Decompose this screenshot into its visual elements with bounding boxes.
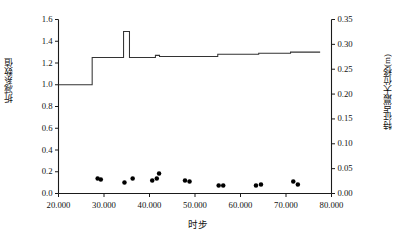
y-axis-left-tick-label: 1.2 <box>42 58 53 68</box>
x-axis-tick-label: 70.000 <box>262 200 310 210</box>
scatter-point <box>221 183 226 188</box>
x-axis-tick-label: 20.000 <box>35 200 83 210</box>
y-axis-right-tick-label: 0.00 <box>338 188 353 198</box>
scatter-point <box>99 177 104 182</box>
scatter-point <box>296 182 301 187</box>
scatter-point <box>150 178 155 183</box>
y-axis-right-tick-label: 0.10 <box>338 138 353 148</box>
scatter-point <box>254 183 259 188</box>
scatter-series <box>59 0 320 188</box>
y-axis-left-tick-label: 0.6 <box>42 123 53 133</box>
y-axis-left-tick-label: 0.0 <box>42 188 53 198</box>
y-axis-right-tick-label: 0.25 <box>338 64 353 74</box>
scatter-point <box>157 171 162 176</box>
x-axis-tick-label: 30.000 <box>80 200 128 210</box>
y-axis-right-tick-label: 0.35 <box>338 14 353 24</box>
y-axis-left-tick-label: 0.2 <box>42 166 53 176</box>
chart-figure: 折减系数值 特征点最大位移(m) 时步 0.00.20.40.60.81.01.… <box>0 0 396 240</box>
scatter-point <box>183 178 188 183</box>
x-axis-tick-label: 80.000 <box>308 200 356 210</box>
y-axis-right-tick-label: 0.05 <box>338 163 353 173</box>
y-axis-left-tick-label: 1.4 <box>42 36 53 46</box>
scatter-point <box>122 180 127 185</box>
y-axis-left-tick-label: 0.4 <box>42 145 53 155</box>
y-axis-right-tick-label: 0.30 <box>338 39 353 49</box>
scatter-point <box>291 179 296 184</box>
y-axis-left-title: 折减系数值 <box>4 58 16 103</box>
y-axis-left-tick-label: 1.0 <box>42 79 53 89</box>
scatter-point <box>216 183 221 188</box>
scatter-point <box>259 182 264 187</box>
scatter-point <box>155 176 160 181</box>
x-axis-title: 时步 <box>0 221 396 231</box>
y-axis-right-tick-label: 0.15 <box>338 113 353 123</box>
x-axis-tick-label: 60.000 <box>217 200 265 210</box>
scatter-point <box>130 176 135 181</box>
scatter-point <box>187 179 192 184</box>
x-axis-tick-label: 40.000 <box>126 200 174 210</box>
x-axis-tick-label: 50.000 <box>171 200 219 210</box>
y-axis-left-tick-label: 0.8 <box>42 101 53 111</box>
y-axis-left-tick-label: 1.6 <box>42 14 53 24</box>
y-axis-right-title: 特征点最大位移(m) <box>383 54 395 130</box>
y-axis-right-tick-label: 0.20 <box>338 89 353 99</box>
step-line-series <box>59 31 321 84</box>
